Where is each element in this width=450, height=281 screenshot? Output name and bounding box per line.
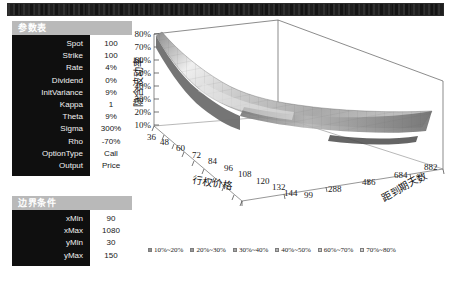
legend-label-4: 60%~70% bbox=[324, 246, 353, 254]
legend-label-3: 40%~50% bbox=[281, 246, 310, 254]
param-label-dividend: Dividend bbox=[12, 75, 90, 87]
boundary-conditions-panel: 边界条件 xMin xMax yMin yMax 90 1080 30 150 bbox=[12, 196, 132, 266]
param-value-spot[interactable]: 100 bbox=[90, 38, 132, 50]
bound-label-xmax: xMax bbox=[12, 225, 90, 237]
param-label-optiontype: OptionType bbox=[12, 148, 90, 160]
legend-swatch-icon-2 bbox=[233, 248, 237, 252]
chart-legend: 10%~20% 20%~30% 30%~40% 40%~50% 60%~70% … bbox=[148, 243, 448, 257]
param-value-sigma[interactable]: 300% bbox=[90, 123, 132, 135]
param-value-theta[interactable]: 9% bbox=[90, 111, 132, 123]
param-label-rate: Rate bbox=[12, 62, 90, 74]
legend-swatch-icon-3 bbox=[275, 248, 279, 252]
bound-label-ymin: yMin bbox=[12, 237, 90, 249]
page-bottom-edge bbox=[0, 271, 450, 281]
legend-swatch-icon-4 bbox=[318, 248, 322, 252]
legend-item-4[interactable]: 60%~70% bbox=[318, 246, 353, 254]
xtick-36: 36 bbox=[147, 132, 157, 142]
legend-item-2[interactable]: 30%~40% bbox=[233, 246, 268, 254]
ztick-10: 10% bbox=[135, 120, 152, 130]
ztick-70: 70% bbox=[135, 42, 152, 52]
chart-svg: 80% 70% 60% 50% 40% 30% 20% 10% 隐含波动率 bbox=[132, 18, 450, 234]
legend-label-0: 10%~20% bbox=[154, 246, 183, 254]
boundary-label-column: xMin xMax yMin yMax bbox=[12, 210, 90, 266]
boundary-panel-body: xMin xMax yMin yMax 90 1080 30 150 bbox=[12, 210, 132, 266]
legend-swatch-icon-0 bbox=[148, 248, 152, 252]
bound-label-ymax: yMax bbox=[12, 250, 90, 262]
titlebar-texture bbox=[8, 4, 443, 15]
z-axis-title: 隐含波动率 bbox=[132, 57, 144, 107]
xtick-144: 144 bbox=[284, 188, 298, 198]
xtick-108: 108 bbox=[238, 169, 252, 179]
param-label-spot: Spot bbox=[12, 38, 90, 50]
legend-label-1: 20%~30% bbox=[196, 246, 225, 254]
parameters-panel-body: Spot Strike Rate Dividend InitVariance K… bbox=[12, 35, 132, 176]
ztick-80: 80% bbox=[135, 29, 152, 39]
param-value-output[interactable]: Price bbox=[90, 160, 132, 172]
param-label-strike: Strike bbox=[12, 50, 90, 62]
legend-label-2: 30%~40% bbox=[239, 246, 268, 254]
param-value-optiontype[interactable]: Call bbox=[90, 148, 132, 160]
bound-value-xmin[interactable]: 90 bbox=[90, 213, 132, 225]
surface-mesh-overlay bbox=[156, 32, 432, 128]
param-value-kappa[interactable]: 1 bbox=[90, 99, 132, 111]
parameters-value-column: 100 100 4% 0% 9% 1 9% 300% -70% Call Pri… bbox=[90, 35, 132, 176]
param-label-theta: Theta bbox=[12, 111, 90, 123]
legend-label-5: 70%~80% bbox=[366, 246, 395, 254]
ytick-882: 882 bbox=[424, 162, 438, 172]
parameters-panel-header: 参数表 bbox=[12, 21, 132, 35]
legend-item-1[interactable]: 20%~30% bbox=[190, 246, 225, 254]
param-value-dividend[interactable]: 0% bbox=[90, 75, 132, 87]
xtick-48: 48 bbox=[160, 137, 170, 147]
window-titlebar bbox=[7, 3, 444, 16]
xtick-60: 60 bbox=[176, 143, 186, 153]
bound-value-ymax[interactable]: 150 bbox=[90, 250, 132, 262]
param-value-rate[interactable]: 4% bbox=[90, 62, 132, 74]
xtick-96: 96 bbox=[224, 163, 234, 173]
parameters-panel: 参数表 Spot Strike Rate Dividend InitVarian… bbox=[12, 21, 132, 176]
param-label-kappa: Kappa bbox=[12, 99, 90, 111]
parameters-label-column: Spot Strike Rate Dividend InitVariance K… bbox=[12, 35, 90, 176]
legend-swatch-icon-5 bbox=[360, 248, 364, 252]
screenshot-root: 参数表 Spot Strike Rate Dividend InitVarian… bbox=[0, 0, 450, 281]
legend-item-3[interactable]: 40%~50% bbox=[275, 246, 310, 254]
param-value-rho[interactable]: -70% bbox=[90, 136, 132, 148]
param-value-strike[interactable]: 100 bbox=[90, 50, 132, 62]
bound-label-xmin: xMin bbox=[12, 213, 90, 225]
ytick-288: 288 bbox=[328, 184, 342, 194]
ytick-486: 486 bbox=[362, 177, 376, 187]
ztick-20: 20% bbox=[135, 107, 152, 117]
boundary-panel-header: 边界条件 bbox=[12, 196, 132, 210]
implied-volatility-surface-chart[interactable]: 80% 70% 60% 50% 40% 30% 20% 10% 隐含波动率 bbox=[132, 18, 450, 234]
xtick-120: 120 bbox=[256, 176, 270, 186]
xtick-72: 72 bbox=[192, 150, 201, 160]
param-label-output: Output bbox=[12, 160, 90, 172]
bound-value-ymin[interactable]: 30 bbox=[90, 237, 132, 249]
param-label-sigma: Sigma bbox=[12, 123, 90, 135]
legend-item-5[interactable]: 70%~80% bbox=[360, 246, 395, 254]
xtick-84: 84 bbox=[208, 156, 218, 166]
boundary-value-column: 90 1080 30 150 bbox=[90, 210, 132, 266]
param-value-initvariance[interactable]: 9% bbox=[90, 87, 132, 99]
legend-swatch-icon-1 bbox=[190, 248, 194, 252]
param-label-initvariance: InitVariance bbox=[12, 87, 90, 99]
ytick-99: 99 bbox=[304, 190, 314, 200]
legend-item-0[interactable]: 10%~20% bbox=[148, 246, 183, 254]
bound-value-xmax[interactable]: 1080 bbox=[90, 225, 132, 237]
param-label-rho: Rho bbox=[12, 136, 90, 148]
